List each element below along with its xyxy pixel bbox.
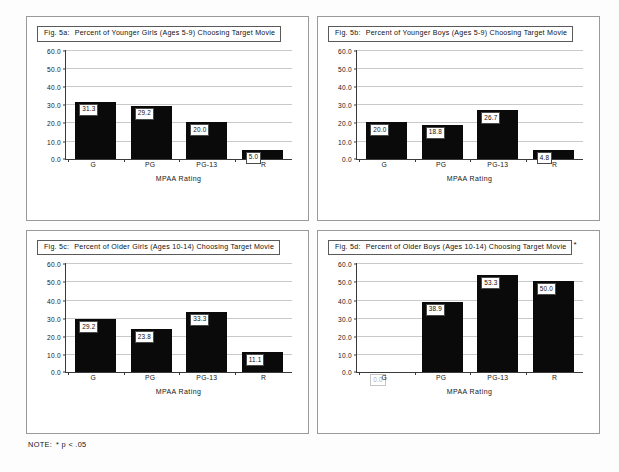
xtick-label-pg: PG	[122, 374, 179, 384]
xtick-label-pg13: PG-13	[470, 161, 527, 171]
figure-number-5a: Fig. 5a:	[44, 29, 70, 37]
axis-area-5a: 60.0 50.0 40.0 30.0 20.0 10.0 0.0 31.3 2…	[65, 50, 292, 160]
figure-panel-5b: Fig. 5b:Percent of Younger Boys (Ages 5-…	[317, 16, 600, 221]
ytick-label-40: 40.0	[47, 84, 61, 91]
ytick-label-60: 60.0	[47, 261, 61, 268]
ytick-label-30: 30.0	[338, 102, 352, 109]
panel-title-wrap-5d: Fig. 5d:Percent of Older Boys (Ages 10-1…	[328, 240, 589, 256]
bar-r[interactable]: 50.0	[533, 281, 574, 372]
ytick-label-20: 20.0	[47, 333, 61, 340]
bar-r[interactable]: 5.0	[242, 150, 283, 159]
bar-pg[interactable]: 38.9	[422, 302, 463, 373]
bar-slot-pg13: 20.0	[179, 50, 235, 159]
xtick-label-r: R	[235, 161, 292, 171]
bar-label-g: 29.2	[79, 321, 98, 333]
ytick-label-30: 30.0	[47, 102, 61, 109]
panel-title-5a: Fig. 5a:Percent of Younger Girls (Ages 5…	[37, 26, 281, 42]
ytick-label-20: 20.0	[338, 333, 352, 340]
figure-number-5d: Fig. 5d:	[335, 243, 361, 251]
note-label: NOTE:	[28, 440, 52, 449]
bar-pg[interactable]: 23.8	[131, 329, 172, 372]
xtick-label-pg: PG	[122, 161, 179, 171]
bar-label-pg13: 33.3	[190, 314, 209, 326]
ytick-label-10: 10.0	[338, 138, 352, 145]
xtick-label-g: G	[356, 161, 413, 171]
xtick-label-pg13: PG-13	[179, 161, 236, 171]
bar-slot-pg: 23.8	[124, 263, 180, 372]
ytick-label-60: 60.0	[47, 47, 61, 54]
bar-slot-g: 0.0	[359, 263, 415, 372]
ytick-label-20: 20.0	[47, 120, 61, 127]
axis-area-5d: 60.0 50.0 40.0 30.0 20.0 10.0 0.0 0.0 38…	[356, 263, 583, 373]
xtick-labels-5c: G PG PG-13 R	[65, 374, 292, 384]
bar-pg13[interactable]: 26.7	[477, 110, 518, 159]
panel-title-5b: Fig. 5b:Percent of Younger Boys (Ages 5-…	[328, 26, 573, 42]
bar-g[interactable]: 31.3	[75, 102, 116, 159]
bar-r[interactable]: 11.1	[242, 352, 283, 372]
plot-inner-5c: 60.0 50.0 40.0 30.0 20.0 10.0 0.0 29.2 2…	[65, 263, 292, 373]
bar-slot-r: 4.8	[526, 50, 582, 159]
ytick-label-10: 10.0	[338, 352, 352, 359]
xtick-label-g: G	[356, 374, 413, 384]
ytick-label-50: 50.0	[338, 279, 352, 286]
bar-slot-r: 11.1	[235, 263, 291, 372]
ytick-label-30: 30.0	[47, 315, 61, 322]
bar-slot-g: 29.2	[68, 263, 124, 372]
bar-pg13[interactable]: 20.0	[186, 122, 227, 158]
xtick-label-r: R	[526, 161, 583, 171]
bar-slot-pg: 38.9	[415, 263, 471, 372]
note-text: * p < .05	[56, 440, 86, 449]
bar-label-r: 50.0	[537, 283, 556, 295]
ytick-label-60: 60.0	[338, 261, 352, 268]
bar-slot-pg13: 53.3	[470, 263, 526, 372]
bar-label-pg13: 53.3	[481, 277, 500, 289]
bar-slot-r: 50.0	[526, 263, 582, 372]
bar-label-pg: 38.9	[426, 304, 445, 316]
ytick-label-60: 60.0	[338, 47, 352, 54]
panel-title-wrap-5a: Fig. 5a:Percent of Younger Girls (Ages 5…	[37, 26, 298, 42]
plot-inner-5b: 60.0 50.0 40.0 30.0 20.0 10.0 0.0 20.0 1…	[356, 50, 583, 160]
panel-title-wrap-5c: Fig. 5c:Percent of Older Girls (Ages 10-…	[37, 240, 298, 256]
bar-slot-g: 20.0	[359, 50, 415, 159]
figure-page: Fig. 5a:Percent of Younger Girls (Ages 5…	[0, 0, 619, 472]
ytick-label-40: 40.0	[47, 297, 61, 304]
bar-g[interactable]: 20.0	[366, 122, 407, 158]
figure-number-5b: Fig. 5b:	[335, 29, 361, 37]
bar-r[interactable]: 4.8	[533, 150, 574, 159]
bar-pg[interactable]: 29.2	[131, 106, 172, 159]
xtick-labels-5d: G PG PG-13 R	[356, 374, 583, 384]
figure-note: NOTE:* p < .05	[28, 440, 87, 449]
bar-slot-g: 31.3	[68, 50, 124, 159]
ytick-label-10: 10.0	[47, 138, 61, 145]
xtick-label-r: R	[235, 374, 292, 384]
ytick-label-10: 10.0	[47, 352, 61, 359]
xaxis-title-5c: MPAA Rating	[65, 388, 292, 395]
bar-label-g: 31.3	[79, 104, 98, 116]
figure-panel-5a: Fig. 5a:Percent of Younger Girls (Ages 5…	[26, 16, 309, 221]
bar-pg13[interactable]: 33.3	[186, 312, 227, 372]
bar-series-5a: 31.3 29.2 20.0 5.0	[68, 50, 290, 159]
bar-pg[interactable]: 18.8	[422, 125, 463, 159]
ytick-label-40: 40.0	[338, 297, 352, 304]
plot-area-5a: 60.0 50.0 40.0 30.0 20.0 10.0 0.0 31.3 2…	[35, 50, 300, 182]
xtick-label-pg13: PG-13	[179, 374, 236, 384]
bar-g[interactable]: 29.2	[75, 319, 116, 372]
xtick-label-g: G	[65, 374, 122, 384]
bar-pg13[interactable]: 53.3	[477, 275, 518, 372]
plot-area-5c: 60.0 50.0 40.0 30.0 20.0 10.0 0.0 29.2 2…	[35, 263, 300, 395]
ytick-label-0: 0.0	[51, 155, 61, 162]
ytick-label-0: 0.0	[342, 369, 352, 376]
plot-area-5d: 60.0 50.0 40.0 30.0 20.0 10.0 0.0 0.0 38…	[326, 263, 591, 395]
figure-panel-grid: Fig. 5a:Percent of Younger Girls (Ages 5…	[26, 16, 600, 434]
axis-area-5b: 60.0 50.0 40.0 30.0 20.0 10.0 0.0 20.0 1…	[356, 50, 583, 160]
plot-inner-5d: 60.0 50.0 40.0 30.0 20.0 10.0 0.0 0.0 38…	[356, 263, 583, 373]
bar-slot-pg: 29.2	[124, 50, 180, 159]
ytick-label-40: 40.0	[338, 84, 352, 91]
figure-caption-5a: Percent of Younger Girls (Ages 5-9) Choo…	[75, 29, 276, 37]
panel-title-5c: Fig. 5c:Percent of Older Girls (Ages 10-…	[37, 240, 280, 256]
figure-panel-5d: Fig. 5d:Percent of Older Boys (Ages 10-1…	[317, 230, 600, 435]
ytick-label-0: 0.0	[342, 155, 352, 162]
bar-label-pg13: 26.7	[481, 112, 500, 124]
bar-series-5b: 20.0 18.8 26.7 4.8	[359, 50, 581, 159]
ytick-label-50: 50.0	[338, 65, 352, 72]
